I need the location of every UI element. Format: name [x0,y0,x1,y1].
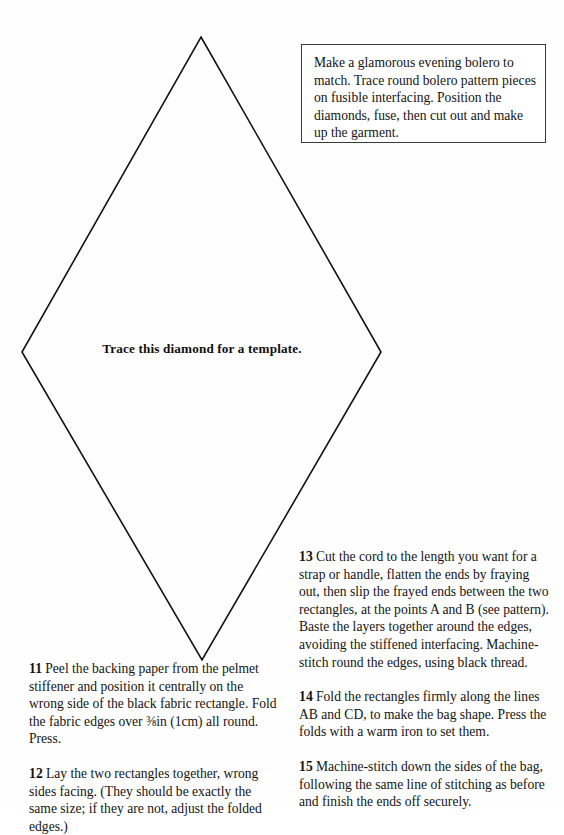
left-text-column: 11Peel the backing paper from the pelmet… [29,660,281,835]
right-text-column: 13Cut the cord to the length you want fo… [299,548,551,811]
diamond-caption: Trace this diamond for a template. [0,341,404,357]
step-paragraph-15: 15Machine-stitch down the sides of the b… [299,758,551,811]
note-box-text: Make a glamorous evening bolero to match… [314,54,538,142]
step-paragraph-11: 11Peel the backing paper from the pelmet… [29,660,281,748]
step-paragraph-14: 14Fold the rectangles firmly along the l… [299,688,551,741]
step-text-14: Fold the rectangles firmly along the lin… [299,689,546,739]
step-paragraph-13: 13Cut the cord to the length you want fo… [299,548,551,671]
step-text-15: Machine-stitch down the sides of the bag… [299,759,545,809]
step-number-15: 15 [299,759,313,774]
note-box: Make a glamorous evening bolero to match… [301,44,546,143]
step-number-14: 14 [299,689,313,704]
step-paragraph-12: 12Lay the two rectangles together, wrong… [29,765,281,835]
step-number-13: 13 [299,549,313,564]
step-number-11: 11 [29,661,42,676]
step-text-13: Cut the cord to the length you want for … [299,549,549,670]
step-number-12: 12 [29,766,43,781]
step-text-12: Lay the two rectangles together, wrong s… [29,766,262,834]
measurement-fraction: ⅜ [146,714,156,729]
